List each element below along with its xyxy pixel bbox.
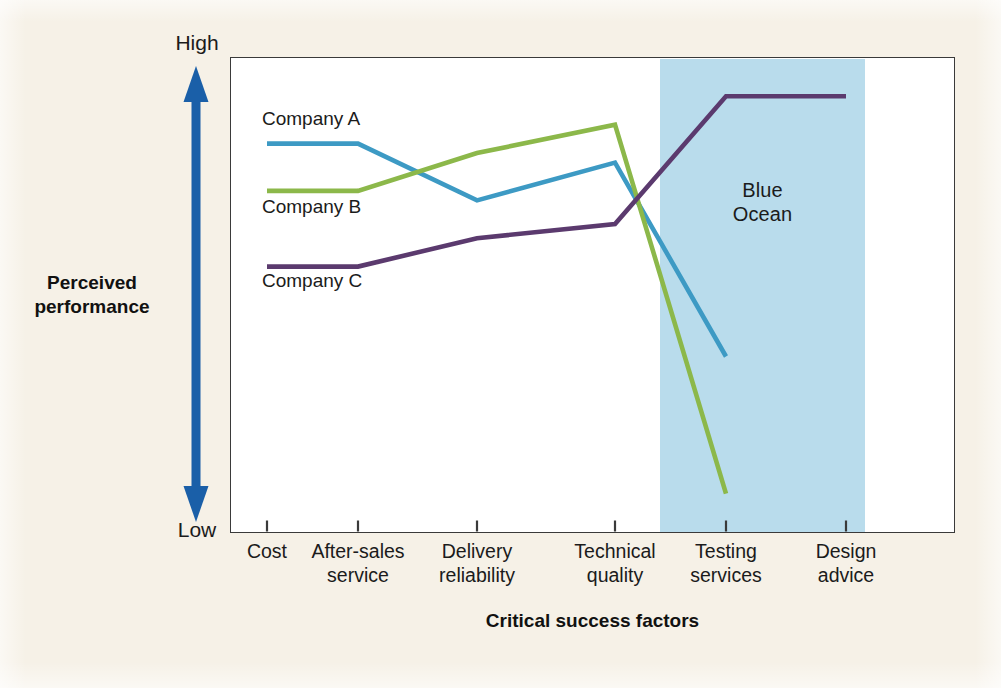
x-tick-label-line: Design bbox=[771, 540, 921, 564]
perceived-performance-arrow-icon bbox=[183, 66, 209, 522]
x-tick-label-line: advice bbox=[771, 564, 921, 588]
y-axis-title: Perceived performance bbox=[12, 271, 172, 319]
x-tick-label-design-advice: Designadvice bbox=[771, 540, 921, 588]
x-axis-title: Critical success factors bbox=[330, 610, 855, 632]
blue-ocean-label-line1: Blue bbox=[700, 178, 825, 202]
blue-ocean-region bbox=[660, 59, 865, 532]
x-tick-label-delivery-reliability: Deliveryreliability bbox=[402, 540, 552, 588]
y-axis-title-line2: performance bbox=[12, 295, 172, 319]
strategy-canvas-figure: Blue Ocean High Low Perceived performanc… bbox=[0, 0, 1001, 688]
series-label-company-a: Company A bbox=[262, 108, 360, 130]
x-tick-label-line: reliability bbox=[402, 564, 552, 588]
blue-ocean-label: Blue Ocean bbox=[700, 178, 825, 227]
blue-ocean-label-line2: Ocean bbox=[700, 202, 825, 226]
y-axis-title-line1: Perceived bbox=[12, 271, 172, 295]
x-tick-label-line: Delivery bbox=[402, 540, 552, 564]
series-label-company-c: Company C bbox=[262, 270, 362, 292]
y-axis-low-label: Low bbox=[137, 518, 257, 542]
y-axis-high-label: High bbox=[137, 31, 257, 55]
series-label-company-b: Company B bbox=[262, 196, 361, 218]
